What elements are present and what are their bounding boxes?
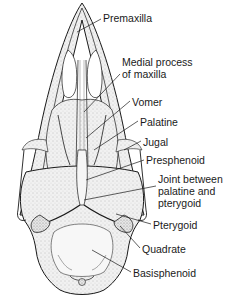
label-pterygoid: Pterygoid [153,219,197,231]
label-medial-process-of-maxilla: Medial process of maxilla [122,56,193,80]
label-quadrate: Quadrate [142,243,186,255]
label-vomer: Vomer [132,96,162,108]
label-palatine: Palatine [140,116,178,128]
label-presphenoid: Presphenoid [146,154,205,166]
label-jugal: Jugal [143,136,168,148]
label-premaxilla: Premaxilla [103,12,152,24]
skull-diagram: Premaxilla Medial process of maxilla Vom… [0,0,225,301]
label-joint-palatine-pterygoid: Joint between palatine and pterygoid [158,173,223,209]
label-basisphenoid: Basisphenoid [133,267,196,279]
skull-illustration [0,0,225,301]
